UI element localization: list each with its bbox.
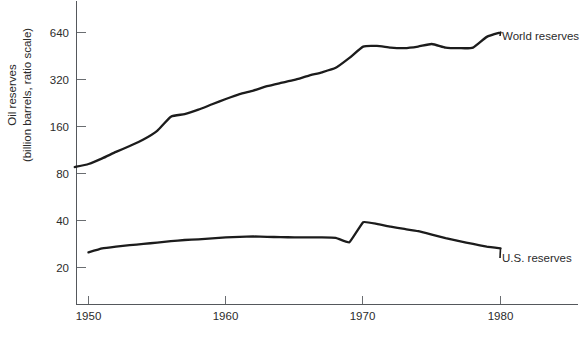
y-axis-label-line1: Oil reserves [6,64,18,126]
x-tick-label-1960: 1960 [213,310,239,322]
y-axis-label-line2: (billion barrels, ratio scale) [21,28,33,162]
y-axis-label-group: Oil reserves (billion barrels, ratio sca… [6,28,33,162]
y-tick-label-160: 160 [50,121,69,133]
y-tick-label-320: 320 [50,74,69,86]
leader-line-us [500,248,501,258]
chart-page: Oil reserves (billion barrels, ratio sca… [0,0,581,340]
x-tick-label-1950: 1950 [76,310,102,322]
series-line-us-reserves [89,222,501,252]
series-label-us-reserves: U.S. reserves [502,252,572,264]
y-ticks-group: 640 320 160 80 40 20 [50,27,86,274]
series-label-world-reserves: World reserves [502,30,579,42]
oil-reserves-chart: Oil reserves (billion barrels, ratio sca… [0,0,581,340]
x-ticks-group: 1950 1960 1970 1980 [76,296,514,322]
series-labels-group: World reserves U.S. reserves [500,30,579,264]
leader-line-world [500,33,501,37]
y-tick-label-80: 80 [56,168,69,180]
x-tick-label-1970: 1970 [350,310,376,322]
series-group [75,33,501,253]
y-tick-label-640: 640 [50,27,69,39]
y-tick-label-20: 20 [56,262,69,274]
series-line-world-reserves [75,33,501,168]
x-tick-label-1980: 1980 [488,310,514,322]
y-tick-label-40: 40 [56,215,69,227]
